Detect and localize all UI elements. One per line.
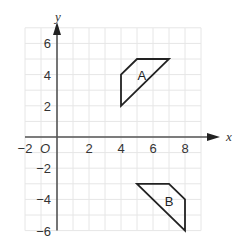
x-axis-label: x (225, 129, 232, 144)
x-tick-label: 8 (181, 141, 188, 156)
x-tick-label: −2 (18, 141, 33, 156)
coordinate-grid-diagram: −22468642−2−4−6 AB x y O (0, 0, 247, 244)
x-axis-arrow-icon (207, 133, 220, 141)
grid-lines (25, 28, 201, 231)
y-tick-label: 4 (44, 68, 51, 83)
y-tick-label: 2 (44, 99, 51, 114)
y-tick-label: −6 (36, 224, 51, 239)
shape-outline (137, 184, 185, 231)
y-tick-label: −4 (36, 192, 51, 207)
shape-a: A (121, 59, 169, 106)
x-tick-label: 4 (117, 141, 124, 156)
shape-label: A (137, 68, 146, 83)
shape-label: B (165, 194, 174, 209)
y-tick-label: 6 (44, 36, 51, 51)
x-tick-label: 6 (149, 141, 156, 156)
shape-b: B (137, 184, 185, 231)
origin-label: O (40, 141, 50, 156)
y-tick-label: −2 (36, 161, 51, 176)
x-tick-label: 2 (85, 141, 92, 156)
y-axis-label: y (53, 9, 61, 24)
